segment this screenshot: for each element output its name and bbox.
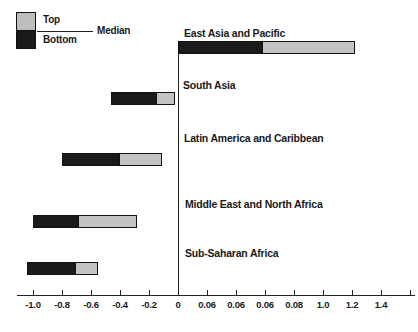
legend-top-swatch bbox=[16, 12, 36, 31]
bar-segment-bottom bbox=[34, 216, 79, 227]
axis-tick bbox=[91, 290, 92, 295]
bar-segment-top bbox=[157, 93, 174, 104]
bar-segment-top bbox=[76, 263, 97, 274]
legend-bottom-swatch bbox=[16, 30, 36, 49]
legend-top-label: Top bbox=[43, 14, 60, 25]
category-label: Sub-Saharan Africa bbox=[185, 247, 278, 259]
bar-segment-top bbox=[79, 216, 136, 227]
bar-3 bbox=[62, 153, 162, 166]
category-label: South Asia bbox=[183, 79, 235, 91]
bar-4 bbox=[33, 215, 137, 228]
axis-tick bbox=[410, 290, 411, 295]
legend-bottom-label: Bottom bbox=[43, 34, 77, 45]
bar-segment-top bbox=[120, 154, 161, 165]
bar-segment-bottom bbox=[28, 263, 76, 274]
category-label: Middle East and North Africa bbox=[185, 198, 323, 210]
zero-baseline bbox=[178, 41, 179, 295]
axis-tick bbox=[323, 290, 324, 295]
axis-tick bbox=[178, 290, 179, 295]
bar-segment-bottom bbox=[63, 154, 120, 165]
bar-chart: Top Bottom Median -1.0-0.8-0.6-0.4-0.200… bbox=[0, 0, 418, 332]
legend-median-label: Median bbox=[97, 25, 130, 36]
bar-5 bbox=[27, 262, 98, 275]
axis-tick-label: 1.4 bbox=[364, 299, 398, 310]
legend-median-line bbox=[37, 31, 93, 32]
bar-1 bbox=[178, 41, 355, 54]
axis-tick bbox=[265, 290, 266, 295]
axis-tick bbox=[381, 290, 382, 295]
bar-segment-bottom bbox=[112, 93, 157, 104]
axis-tick bbox=[120, 290, 121, 295]
axis-tick bbox=[352, 290, 353, 295]
bar-segment-bottom bbox=[179, 42, 263, 53]
axis-tick bbox=[236, 290, 237, 295]
axis-tick bbox=[62, 290, 63, 295]
axis-tick bbox=[149, 290, 150, 295]
bar-segment-top bbox=[263, 42, 354, 53]
category-label: Latin America and Caribbean bbox=[184, 132, 324, 144]
x-axis-line bbox=[17, 295, 415, 296]
axis-tick bbox=[207, 290, 208, 295]
axis-tick bbox=[33, 290, 34, 295]
axis-tick bbox=[294, 290, 295, 295]
bar-2 bbox=[111, 92, 175, 105]
category-label: East Asia and Pacific bbox=[184, 27, 285, 39]
